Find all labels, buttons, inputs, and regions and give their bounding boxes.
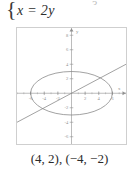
x-axis-arrow xyxy=(123,91,126,95)
y-axis-arrow xyxy=(70,28,74,31)
y-tick-label: -6 xyxy=(64,134,69,139)
equation-expression: x = 2y xyxy=(17,2,55,20)
y-axis-label: y xyxy=(76,29,79,34)
x-tick-label: -4 xyxy=(42,96,47,101)
plot-svg: -6-4-2246-6-4-22468xy xyxy=(17,28,126,144)
y-tick-label: -2 xyxy=(64,105,69,110)
y-tick-label: 2 xyxy=(66,76,69,81)
plot-frame: -6-4-2246-6-4-22468xy xyxy=(16,27,127,145)
y-tick-label: 6 xyxy=(66,47,69,52)
solution-caption: (4, 2), (−4, −2) xyxy=(0,150,139,168)
x-axis-label: x xyxy=(118,86,121,91)
y-tick-label: -4 xyxy=(64,120,69,125)
left-brace-symbol: { xyxy=(6,0,17,20)
clipped-equation-fragment: 3 xyxy=(92,0,106,5)
x-tick-label: 4 xyxy=(98,96,101,101)
y-tick-label: 8 xyxy=(66,33,69,38)
system-equation: 3 { x = 2y xyxy=(0,0,139,24)
y-tick-label: 4 xyxy=(66,62,69,67)
x-tick-label: 2 xyxy=(84,96,87,101)
math-figure: 3 { x = 2y -6-4-2246-6-4-22468xy (4, 2),… xyxy=(0,0,139,181)
